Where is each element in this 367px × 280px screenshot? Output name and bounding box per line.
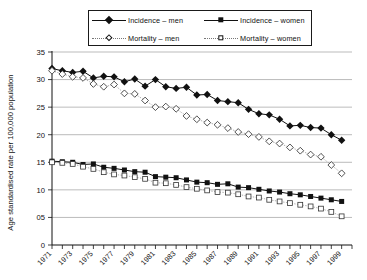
y-tick-label: 10 [37,186,45,195]
data-point [307,124,314,131]
data-point [80,75,87,82]
data-point [266,111,273,118]
data-point [81,164,86,169]
data-point [214,97,221,104]
x-tick-label: 1991 [242,249,260,267]
data-point [276,116,283,123]
data-point [131,75,138,82]
legend-swatch-mortality-men [92,32,126,44]
legend-label-mortality-men: Mortality – men [126,34,179,43]
y-tick-label: 30 [37,75,45,84]
data-point [235,129,242,136]
data-point [143,170,148,175]
legend-item-incidence-men: Incidence – men [89,11,201,29]
data-point [184,185,189,190]
data-point [298,202,303,207]
data-point [338,137,345,144]
data-point [224,98,231,105]
data-point [266,138,273,145]
chart-legend: Incidence – men Incidence – women Mortal… [88,10,312,46]
data-point [256,187,261,192]
data-point [319,206,324,211]
x-tick-label: 1975 [77,249,95,267]
data-point [277,190,282,195]
legend-swatch-incidence-men [92,14,126,26]
data-point [122,173,127,178]
data-point [307,151,314,158]
data-point [317,124,324,131]
data-point [236,185,241,190]
x-tick-label: 1981 [139,249,157,267]
data-point [193,91,200,98]
data-point [184,177,189,182]
data-point [214,121,221,128]
data-point [339,214,344,219]
diamond-open-icon [105,34,113,42]
x-tick-label: 1993 [263,249,281,267]
data-point [267,197,272,202]
data-point [173,105,180,112]
data-point [79,68,86,75]
data-point [91,161,96,166]
data-point [112,172,117,177]
data-point [101,170,106,175]
data-point [172,85,179,92]
data-point [142,97,149,104]
legend-label-incidence-men: Incidence – men [126,16,183,25]
legend-item-mortality-men: Mortality – men [89,29,201,47]
diamond-filled-icon [105,16,113,24]
data-point [131,91,138,98]
data-point [288,201,293,206]
data-point [70,162,75,167]
data-point [132,175,137,180]
data-point [194,186,199,191]
data-point [245,131,252,138]
data-point [224,125,231,132]
data-point [100,83,107,90]
data-point [50,160,55,165]
square-open-icon [218,35,223,40]
data-point [287,144,294,151]
data-point [183,84,190,91]
data-point [152,76,159,83]
data-point [236,192,241,197]
data-point [205,180,210,185]
x-tick-label: 1987 [201,249,219,267]
x-tick-label: 1995 [284,249,302,267]
data-point [153,180,158,185]
data-point [132,169,137,174]
data-point [162,83,169,90]
data-point [318,196,323,201]
data-point [246,185,251,190]
legend-swatch-incidence-women [204,14,238,26]
data-point [308,204,313,209]
data-point [339,199,344,204]
data-point [174,175,179,180]
data-point [152,104,159,111]
axis-lines [52,51,352,245]
data-point [205,188,210,193]
data-point [112,166,117,171]
data-point [143,176,148,181]
data-point [163,175,168,180]
data-point [121,78,128,85]
data-point [287,191,292,196]
data-point [101,165,106,170]
data-point [256,195,261,200]
data-point [153,174,158,179]
legend-label-incidence-women: Incidence – women [238,16,305,25]
y-tick-label: 35 [37,48,45,57]
legend-item-incidence-women: Incidence – women [201,11,313,29]
data-point [91,167,96,172]
data-point [255,110,262,117]
data-point [194,180,199,185]
x-tick-label: 1997 [304,249,322,267]
data-point [203,91,210,98]
data-point [329,197,334,202]
data-point [121,90,128,97]
data-point [286,122,293,129]
y-tick-label: 15 [37,158,45,167]
x-tick-label: 1989 [222,249,240,267]
data-point [225,181,230,186]
y-tick-label: 0 [41,241,45,250]
